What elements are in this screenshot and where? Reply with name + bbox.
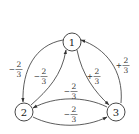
edge-label-1-to-3: + 2 3 — [87, 67, 101, 86]
node-1-label: 1 — [69, 37, 75, 48]
sign: − — [9, 65, 15, 74]
sign: − — [34, 72, 40, 81]
sign: + — [87, 72, 93, 81]
node-3: 3 — [107, 103, 125, 121]
edge-label-2-to-1: − 2 3 — [34, 67, 48, 86]
node-2-label: 2 — [21, 107, 27, 118]
denominator: 3 — [72, 115, 77, 124]
edge-1-to-3 — [77, 50, 109, 105]
numerator: 2 — [95, 67, 100, 76]
edge-label-1-to-2: − 2 3 — [9, 60, 23, 79]
denominator: 3 — [42, 77, 47, 86]
node-1: 1 — [63, 33, 81, 51]
numerator: 2 — [42, 67, 47, 76]
sign: + — [116, 61, 122, 70]
numerator: 2 — [17, 60, 22, 69]
denominator: 3 — [95, 77, 100, 86]
edge-2-to-3 — [33, 117, 107, 125]
node-2: 2 — [15, 103, 33, 121]
sign: − — [64, 110, 70, 119]
edge-label-3-to-1: + 2 3 — [116, 56, 130, 75]
transition-diagram: 1 2 3 − 2 3 − 2 3 + 2 3 + 2 3 − 2 3 — [0, 0, 139, 134]
numerator: 2 — [124, 56, 129, 65]
edge-label-3-to-2: − 2 3 — [64, 82, 78, 101]
denominator: 3 — [17, 70, 22, 79]
edge-label-2-to-3: − 2 3 — [64, 105, 78, 124]
sign: − — [64, 87, 70, 96]
numerator: 2 — [72, 82, 77, 91]
denominator: 3 — [124, 66, 129, 75]
denominator: 3 — [72, 92, 77, 101]
edge-3-to-2 — [33, 99, 107, 108]
numerator: 2 — [72, 105, 77, 114]
node-3-label: 3 — [113, 107, 119, 118]
